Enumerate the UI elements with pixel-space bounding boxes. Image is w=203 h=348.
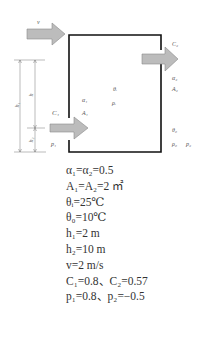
label-a2: A₂	[172, 86, 178, 92]
formula-velocity: v=2 m/s	[66, 258, 148, 274]
label-h: h	[28, 94, 34, 97]
label-h1: h₁	[14, 102, 20, 107]
label-v: v	[37, 19, 40, 25]
wind-arrow	[27, 23, 65, 45]
label-theta-i: θᵢ	[113, 86, 117, 92]
label-a1: A₁	[82, 110, 88, 116]
formula-pressures: p₁=0.8、p₂=−0.5	[66, 289, 148, 305]
label-rho-i: ρᵢ	[112, 100, 116, 106]
label-h2: h₂	[28, 137, 34, 142]
formula-alpha: α₁=α₂=0.5	[66, 163, 148, 179]
label-alpha2: α₂	[172, 75, 177, 81]
formula-h2: h₂=10 m	[66, 242, 148, 258]
formula-theta-0: θ₀=10℃	[66, 210, 148, 226]
formula-coefficients: C₁=0.8、C₂=0.57	[66, 274, 148, 290]
formula-area: A₁=A₂=2 ㎡	[66, 179, 148, 195]
label-rho-0: ρ₀	[172, 141, 177, 147]
label-alpha1: α₁	[82, 97, 87, 103]
outlet-arrow	[142, 47, 178, 71]
label-p1: p₁	[51, 141, 56, 147]
label-c1: C₁	[52, 110, 59, 117]
inlet-arrow	[50, 117, 88, 139]
building-walls	[69, 35, 161, 152]
given-values: α₁=α₂=0.5 A₁=A₂=2 ㎡ θᵢ=25℃ θ₀=10℃ h₁=2 m…	[66, 163, 148, 305]
label-theta-0: θ₀	[172, 127, 177, 133]
formula-theta-i: θᵢ=25℃	[66, 195, 148, 211]
label-c2: C₂	[172, 41, 178, 47]
label-p2: p₂	[186, 141, 191, 147]
formula-h1: h₁=2 m	[66, 226, 148, 242]
